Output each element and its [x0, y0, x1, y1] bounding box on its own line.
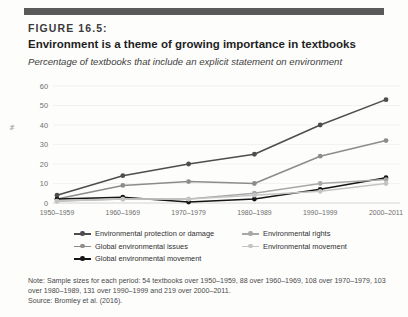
chart-legend: Environmental protection or damageGlobal…	[74, 228, 394, 266]
data-point	[120, 197, 125, 202]
y-axis-label: %	[8, 124, 15, 130]
y-tick-label: 20	[40, 160, 48, 169]
x-tick-label: 1980–1989	[237, 209, 272, 216]
x-tick-label: 1960–1969	[106, 209, 141, 216]
data-point	[120, 173, 125, 178]
x-tick-label: 2000–2011	[369, 209, 403, 216]
note-source: Source: Bromley et al. (2016).	[28, 297, 386, 307]
data-point	[186, 179, 191, 184]
data-point	[252, 181, 257, 186]
x-tick-label: 1950–1959	[40, 209, 75, 216]
y-tick-label: 40	[40, 121, 48, 130]
y-tick-label: 30	[40, 140, 48, 149]
legend-label: Environmental rights	[263, 229, 330, 238]
figure-note: Note: Sample sizes for each period: 54 t…	[28, 277, 386, 307]
data-point	[384, 97, 389, 102]
x-tick-label: 1990–1999	[303, 209, 338, 216]
legend-swatch-icon	[74, 254, 91, 263]
figure-header: FIGURE 16.5: Environment is a theme of g…	[28, 22, 388, 68]
figure-number: FIGURE 16.5:	[28, 22, 388, 35]
series-line	[57, 100, 386, 196]
legend-label: Environmental movement	[263, 242, 347, 251]
gridlines	[53, 86, 400, 203]
data-point	[120, 183, 125, 188]
data-point	[384, 181, 389, 186]
series-line	[57, 141, 386, 200]
data-point	[252, 193, 257, 198]
y-axis-ticks: 0102030405060	[40, 82, 48, 208]
y-tick-label: 50	[40, 101, 48, 110]
line-chart: 0102030405060 1950–19591960–19691970–197…	[0, 78, 408, 226]
figure-subtitle: Percentage of textbooks that include an …	[28, 55, 388, 68]
data-point	[186, 162, 191, 167]
legend-label: Environmental protection or damage	[95, 229, 214, 238]
data-point	[252, 152, 257, 157]
y-tick-label: 60	[40, 82, 48, 91]
figure-container: FIGURE 16.5: Environment is a theme of g…	[0, 0, 408, 317]
legend-column-left: Environmental protection or damageGlobal…	[74, 228, 242, 266]
legend-label: Global environmental issues	[95, 242, 188, 251]
y-tick-label: 0	[44, 199, 48, 208]
data-point	[318, 154, 323, 159]
x-axis-ticks: 1950–19591960–19691970–19791980–19891990…	[40, 209, 403, 216]
legend-swatch-icon	[74, 242, 91, 251]
series-lines	[55, 97, 389, 204]
legend-swatch-icon	[242, 229, 259, 238]
legend-item: Environmental movement	[242, 241, 394, 253]
legend-swatch-icon	[242, 242, 259, 251]
legend-item: Environmental rights	[242, 228, 394, 240]
legend-item: Global environmental issues	[74, 241, 242, 253]
data-point	[384, 138, 389, 143]
legend-label: Global environmental movement	[95, 254, 201, 263]
figure-title: Environment is a theme of growing import…	[28, 37, 388, 52]
data-point	[318, 181, 323, 186]
note-text: Note: Sample sizes for each period: 54 t…	[28, 277, 386, 295]
x-tick-label: 1970–1979	[171, 209, 206, 216]
data-point	[318, 189, 323, 194]
legend-column-right: Environmental rightsEnvironmental moveme…	[242, 228, 394, 266]
y-tick-label: 10	[40, 179, 48, 188]
legend-item: Environmental protection or damage	[74, 228, 242, 240]
legend-swatch-icon	[74, 229, 91, 238]
legend-item: Global environmental movement	[74, 253, 242, 265]
data-point	[55, 199, 60, 204]
data-point	[186, 197, 191, 202]
data-point	[318, 123, 323, 128]
chart-plot-area: 0102030405060 1950–19591960–19691970–197…	[0, 78, 408, 226]
header-rule	[24, 8, 384, 15]
